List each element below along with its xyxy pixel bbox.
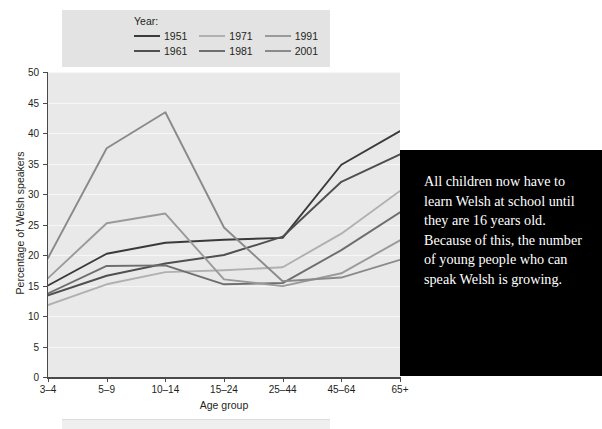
series-lines <box>48 72 400 377</box>
legend-label: 2001 <box>295 45 318 57</box>
y-tick-label: 40 <box>28 128 39 139</box>
legend-label: 1951 <box>164 30 187 42</box>
y-tick <box>43 164 47 165</box>
y-tick-label: 0 <box>33 372 39 383</box>
x-tick-label: 65+ <box>392 384 409 395</box>
y-tick <box>43 347 47 348</box>
y-tick-label: 25 <box>28 219 39 230</box>
legend-swatch-1971 <box>199 35 225 37</box>
bottom-strip <box>62 419 330 429</box>
legend-row: 195119711991 <box>134 30 330 42</box>
legend-item-1951[interactable]: 1951 <box>134 30 199 42</box>
legend-item-1981[interactable]: 1981 <box>199 45 264 57</box>
y-axis-label: Percentage of Welsh speakers <box>14 133 26 313</box>
series-line-1951 <box>48 131 400 285</box>
x-tick <box>107 378 108 382</box>
y-tick <box>43 103 47 104</box>
y-tick <box>43 316 47 317</box>
legend-item-1991[interactable]: 1991 <box>265 30 330 42</box>
y-axis-line <box>47 72 48 378</box>
legend-item-1971[interactable]: 1971 <box>199 30 264 42</box>
callout-box: All children now have to learn Welsh at … <box>400 150 602 376</box>
y-tick-label: 30 <box>28 189 39 200</box>
x-tick-label: 15–24 <box>210 384 238 395</box>
x-tick <box>165 378 166 382</box>
x-tick <box>283 378 284 382</box>
legend-swatch-1951 <box>134 35 160 37</box>
x-tick-label: 25–44 <box>269 384 297 395</box>
x-tick-label: 3–4 <box>40 384 57 395</box>
y-tick <box>43 255 47 256</box>
x-tick-label: 10–14 <box>151 384 179 395</box>
x-tick <box>341 378 342 382</box>
x-axis-label: Age group <box>48 399 400 411</box>
x-tick-label: 45–64 <box>327 384 355 395</box>
x-tick <box>48 378 49 382</box>
y-tick-label: 5 <box>33 341 39 352</box>
legend-swatch-1991 <box>265 35 291 37</box>
legend-label: 1971 <box>229 30 252 42</box>
legend-swatch-2001 <box>265 50 291 52</box>
legend-label: 1981 <box>229 45 252 57</box>
chart-legend: Year: 195119711991196119812001 <box>62 10 330 67</box>
legend-title: Year: <box>134 16 330 27</box>
legend-label: 1961 <box>164 45 187 57</box>
x-tick <box>224 378 225 382</box>
line-chart: 05101520253035404550 3–45–910–1415–2425–… <box>0 67 440 387</box>
x-tick-label: 5–9 <box>98 384 115 395</box>
legend-row: 196119812001 <box>134 45 330 57</box>
y-tick-label: 10 <box>28 311 39 322</box>
legend-swatch-1961 <box>134 50 160 52</box>
callout-text: All children now have to learn Welsh at … <box>424 172 584 290</box>
y-tick-label: 35 <box>28 158 39 169</box>
x-tick <box>400 378 401 382</box>
y-tick <box>43 377 47 378</box>
legend-item-2001[interactable]: 2001 <box>265 45 330 57</box>
legend-swatch-1981 <box>199 50 225 52</box>
legend-item-1961[interactable]: 1961 <box>134 45 199 57</box>
legend-label: 1991 <box>295 30 318 42</box>
series-line-1961 <box>48 154 400 295</box>
series-line-1981 <box>48 212 400 293</box>
y-tick <box>43 194 47 195</box>
y-tick-label: 50 <box>28 67 39 78</box>
y-tick <box>43 286 47 287</box>
y-tick <box>43 225 47 226</box>
series-line-1971 <box>48 191 400 305</box>
plot-area <box>48 72 400 377</box>
y-tick <box>43 133 47 134</box>
y-tick-label: 20 <box>28 250 39 261</box>
y-tick-label: 15 <box>28 280 39 291</box>
y-tick-label: 45 <box>28 97 39 108</box>
y-tick <box>43 72 47 73</box>
legend-entries: 195119711991196119812001 <box>134 30 330 57</box>
